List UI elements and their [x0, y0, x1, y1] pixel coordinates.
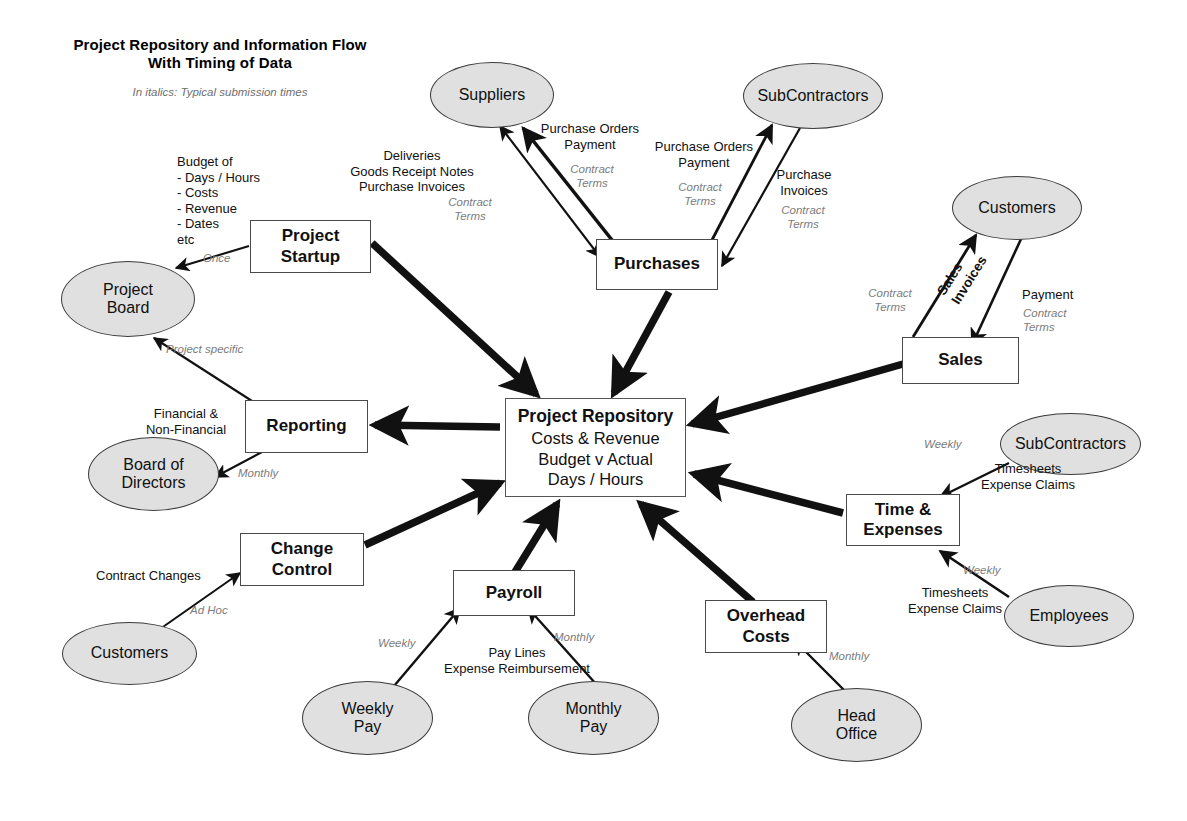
label-reporting-monthly: Monthly [238, 467, 278, 481]
label-deliveries-block: Deliveries Goods Receipt Notes Purchase … [322, 148, 502, 195]
edge-overhead-costs-to-repository [641, 504, 753, 602]
node-payroll[interactable]: Payroll [453, 570, 575, 616]
label-purchase-orders-payment-suppliers-terms: Contract Terms [560, 163, 624, 191]
edge-change-control-to-repository [365, 483, 500, 545]
node-project-repository-line2: Budget v Actual [538, 449, 653, 469]
node-subcontractors-top[interactable]: SubContractors [743, 63, 883, 129]
edge-payroll-to-repository [515, 504, 557, 572]
label-timesheets-subcontractors-frequency: Weekly [924, 438, 962, 452]
title-subtitle: In italics: Typical submission times [55, 86, 385, 98]
node-customers-right[interactable]: Customers [952, 176, 1082, 240]
node-head-office-label: Head Office [836, 707, 878, 744]
title-line-1: Project Repository and Information Flow [55, 36, 385, 54]
diagram-title: Project Repository and Information Flow … [55, 36, 385, 98]
node-subcontractors-right-label: SubContractors [1015, 435, 1126, 453]
label-budget-of: Budget of - Days / Hours - Costs - Reven… [177, 154, 260, 248]
label-project-specific: Project specific [166, 343, 243, 357]
diagram-canvas: Project Repository and Information Flow … [0, 0, 1187, 821]
label-startup-once: Once [203, 252, 231, 266]
node-employees-label: Employees [1029, 607, 1108, 625]
node-weekly-pay-label: Weekly Pay [341, 700, 393, 737]
node-board-of-directors[interactable]: Board of Directors [88, 437, 219, 511]
edge-sales-to-repository [692, 364, 903, 424]
label-purchase-orders-payment-subcontractors-terms: Contract Terms [668, 181, 732, 209]
node-customers-left-label: Customers [91, 644, 168, 662]
label-deliveries-terms: Contract Terms [433, 196, 507, 224]
label-purchase-orders-payment-subcontractors: Purchase Orders Payment [634, 139, 774, 170]
node-suppliers-label: Suppliers [459, 86, 526, 104]
label-customer-payment-terms: Contract Terms [1023, 307, 1066, 335]
node-reporting[interactable]: Reporting [245, 400, 368, 453]
node-project-repository-line1: Costs & Revenue [531, 428, 659, 448]
label-sales-invoices-terms: Contract Terms [858, 287, 922, 315]
node-change-control-label: Change Control [271, 539, 333, 579]
label-payroll-monthly: Monthly [554, 631, 594, 645]
node-board-of-directors-label: Board of Directors [121, 456, 185, 493]
node-overhead-costs[interactable]: Overhead Costs [705, 600, 827, 653]
node-project-board-label: Project Board [103, 281, 153, 318]
node-customers-left[interactable]: Customers [62, 622, 197, 685]
edge-time-expenses-to-repository [694, 474, 843, 513]
node-change-control[interactable]: Change Control [240, 533, 364, 586]
node-sales-label: Sales [938, 350, 982, 370]
edge-repository-to-reporting [375, 425, 500, 427]
node-project-board[interactable]: Project Board [61, 261, 195, 337]
label-ad-hoc: Ad Hoc [190, 604, 228, 618]
node-sales[interactable]: Sales [902, 337, 1019, 384]
node-monthly-pay[interactable]: Monthly Pay [528, 681, 659, 755]
title-line-2: With Timing of Data [55, 54, 385, 72]
node-monthly-pay-label: Monthly Pay [565, 700, 621, 737]
label-payroll-weekly: Weekly [378, 637, 416, 651]
node-project-repository[interactable]: Project Repository Costs & Revenue Budge… [505, 398, 686, 497]
node-subcontractors-top-label: SubContractors [757, 87, 868, 105]
label-pay-lines: Pay Lines Expense Reimbursement [404, 645, 630, 676]
node-head-office[interactable]: Head Office [791, 688, 922, 762]
node-project-repository-header: Project Repository [518, 406, 674, 427]
node-purchases[interactable]: Purchases [596, 239, 718, 290]
label-purchase-invoices-subcontractors: Purchase Invoices [754, 167, 854, 198]
label-customer-payment: Payment [1022, 287, 1073, 303]
label-overhead-monthly: Monthly [829, 650, 869, 664]
node-reporting-label: Reporting [266, 416, 346, 436]
node-payroll-label: Payroll [486, 583, 543, 603]
label-timesheets-employees: Timesheets Expense Claims [880, 585, 1030, 616]
node-purchases-label: Purchases [614, 254, 700, 274]
label-contract-changes: Contract Changes [96, 568, 201, 584]
label-timesheets-subcontractors: Timesheets Expense Claims [953, 461, 1103, 492]
node-weekly-pay[interactable]: Weekly Pay [302, 681, 433, 755]
node-project-repository-line3: Days / Hours [548, 469, 643, 489]
label-timesheets-employees-frequency: Weekly [963, 564, 1001, 578]
label-purchase-invoices-subcontractors-terms: Contract Terms [768, 204, 838, 232]
node-project-startup[interactable]: Project Startup [250, 220, 371, 273]
node-time-expenses-label: Time & Expenses [863, 500, 942, 540]
node-overhead-costs-label: Overhead Costs [727, 606, 805, 646]
edge-purchases-to-repository [614, 292, 669, 393]
edge-startup-to-repository [372, 243, 536, 394]
label-financial-nonfinancial: Financial & Non-Financial [126, 406, 246, 437]
node-suppliers[interactable]: Suppliers [430, 62, 554, 128]
node-customers-right-label: Customers [978, 199, 1055, 217]
node-time-expenses[interactable]: Time & Expenses [846, 494, 960, 546]
node-project-startup-label: Project Startup [281, 226, 341, 266]
